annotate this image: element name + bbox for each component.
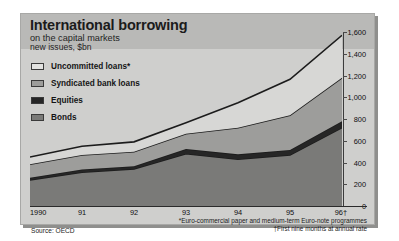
x-tick-label: 92 — [130, 208, 138, 217]
y-tick-label: 1,600 — [348, 28, 367, 37]
x-tick-label: 95 — [286, 208, 294, 217]
page-title: International borrowing — [30, 17, 187, 33]
legend-label-equities: Equities — [51, 96, 83, 105]
legend-item-syndicated: Syndicated bank loans — [31, 77, 140, 90]
footnote-asterisk: *Euro-commercial paper and medium-term E… — [179, 217, 367, 225]
x-tick-label: 96† — [335, 208, 347, 217]
legend-label-syndicated: Syndicated bank loans — [51, 79, 140, 88]
y-tick-mark — [343, 141, 347, 142]
y-tick-mark — [343, 54, 347, 55]
footnotes: *Euro-commercial paper and medium-term E… — [179, 217, 367, 233]
y-tick-mark — [343, 97, 347, 98]
legend-swatch-syndicated — [31, 80, 44, 87]
y-tick-mark — [343, 76, 347, 77]
x-tick-label: 1990 — [30, 208, 46, 217]
y-tick-label: 1,000 — [348, 93, 367, 102]
y-tick-label: 400 — [354, 158, 366, 167]
legend-swatch-bonds — [31, 114, 44, 121]
chart-legend: Uncommitted loans* Syndicated bank loans… — [31, 60, 140, 128]
legend-item-uncommitted: Uncommitted loans* — [31, 60, 140, 73]
x-tick-label: 94 — [234, 208, 242, 217]
footnote-dagger: †First nine months at annual rate — [179, 225, 367, 233]
legend-label-uncommitted: Uncommitted loans* — [51, 62, 130, 71]
legend-swatch-equities — [31, 97, 44, 104]
y-tick-mark — [343, 163, 347, 164]
x-tick-label: 91 — [78, 208, 86, 217]
y-tick-label: 600 — [354, 136, 366, 145]
y-tick-mark — [343, 119, 347, 120]
legend-item-bonds: Bonds — [31, 111, 140, 124]
legend-label-bonds: Bonds — [51, 113, 76, 122]
y-tick-label: 800 — [354, 115, 366, 124]
chart-figure: International borrowing on the capital m… — [20, 13, 375, 225]
y-tick-label: 200 — [354, 180, 366, 189]
y-tick-mark — [343, 184, 347, 185]
legend-swatch-uncommitted — [31, 63, 44, 70]
x-axis-line — [30, 206, 367, 207]
y-axis: 02004006008001,0001,2001,4001,600 — [343, 32, 367, 206]
x-tick-label: 93 — [182, 208, 190, 217]
source-label: Source: OECD — [31, 227, 75, 234]
y-tick-label: 1,200 — [348, 71, 367, 80]
y-tick-label: 1,400 — [348, 49, 367, 58]
legend-item-equities: Equities — [31, 94, 140, 107]
y-tick-mark — [343, 32, 347, 33]
